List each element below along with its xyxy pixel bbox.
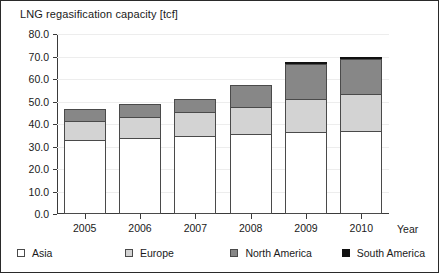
legend-label: North America: [245, 247, 312, 259]
bar-segment: [285, 132, 327, 214]
swatch-south-america-icon: [342, 249, 350, 257]
bar-segment: [119, 104, 161, 118]
bar-segment: [285, 99, 327, 132]
legend-item[interactable]: South America: [342, 247, 425, 259]
bar-segment: [64, 140, 106, 214]
bar-segment: [230, 107, 272, 134]
bar-segment: [174, 112, 216, 137]
chart-legend: AsiaEuropeNorth AmericaSouth America: [17, 247, 425, 259]
bar-column: [174, 34, 216, 214]
y-tick-label: 40.0: [29, 118, 49, 130]
swatch-north-america-icon: [230, 249, 238, 257]
legend-item[interactable]: North America: [230, 247, 341, 259]
bar-segment: [340, 131, 382, 214]
swatch-asia-icon: [17, 249, 25, 257]
y-tick-label: 70.0: [29, 51, 49, 63]
x-tick-mark: [195, 214, 196, 219]
x-tick-mark: [85, 214, 86, 219]
bar-column: [64, 34, 106, 214]
chart-title: LNG regasification capacity [tcf]: [20, 8, 178, 20]
bar-segment: [174, 99, 216, 111]
bar-segment: [340, 59, 382, 94]
bar-column: [285, 34, 327, 214]
bar-segment: [285, 64, 327, 99]
legend-label: Europe: [140, 247, 174, 259]
x-tick-mark: [251, 214, 252, 219]
bar-column: [340, 34, 382, 214]
y-tick-label: 10.0: [29, 186, 49, 198]
bar-column: [230, 34, 272, 214]
x-axis-title: Year: [397, 223, 418, 235]
bar-segment: [174, 136, 216, 214]
bar-segment: [119, 117, 161, 137]
bar-segment: [64, 121, 106, 140]
y-tick-label: 30.0: [29, 141, 49, 153]
bar-segment: [230, 134, 272, 214]
x-tick-label: 2005: [73, 222, 96, 234]
legend-item[interactable]: Asia: [17, 247, 125, 259]
chart-figure: LNG regasification capacity [tcf] 0.010.…: [0, 0, 439, 273]
legend-label: South America: [357, 247, 425, 259]
x-tick-label: 2008: [239, 222, 262, 234]
legend-item[interactable]: Europe: [125, 247, 230, 259]
x-tick-label: 2007: [184, 222, 207, 234]
y-tick-label: 20.0: [29, 163, 49, 175]
bar-segment: [340, 94, 382, 131]
bar-segment: [64, 109, 106, 120]
x-tick-label: 2006: [128, 222, 151, 234]
bar-segment: [119, 138, 161, 215]
x-tick-mark: [306, 214, 307, 219]
plot-area: 0.010.020.030.040.050.060.070.080.0 2005…: [57, 34, 389, 214]
x-tick-label: 2010: [350, 222, 373, 234]
bar-segment: [230, 85, 272, 108]
x-tick-label: 2009: [294, 222, 317, 234]
y-tick-label: 50.0: [29, 96, 49, 108]
bar-series-group: [57, 34, 389, 214]
bar-column: [119, 34, 161, 214]
x-tick-mark: [140, 214, 141, 219]
legend-label: Asia: [32, 247, 52, 259]
y-tick-mark: [53, 214, 57, 215]
x-tick-mark: [361, 214, 362, 219]
y-tick-label: 0.0: [34, 208, 49, 220]
y-tick-label: 60.0: [29, 73, 49, 85]
y-tick-label: 80.0: [29, 28, 49, 40]
swatch-europe-icon: [125, 249, 133, 257]
